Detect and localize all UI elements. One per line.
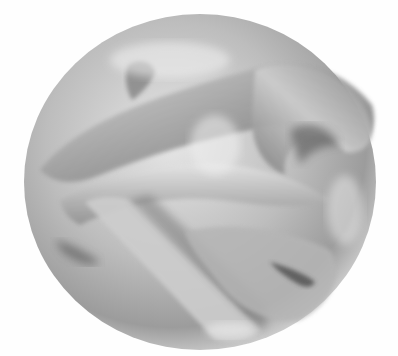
highlight-right [327, 175, 363, 245]
highlight-bottom [205, 322, 255, 338]
render-canvas [0, 0, 398, 356]
highlight-center [190, 115, 240, 175]
manifold-render [0, 0, 398, 356]
highlight-top [110, 42, 230, 78]
